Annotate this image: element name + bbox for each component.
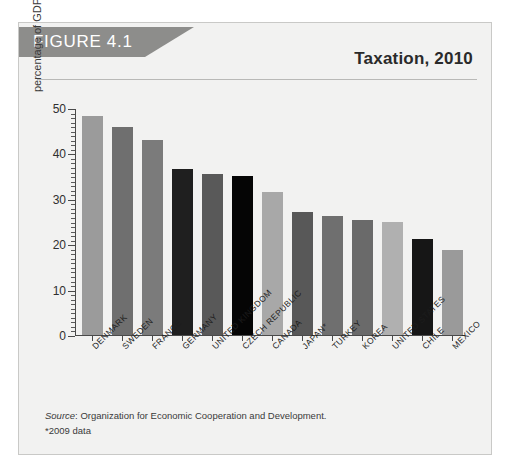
y-axis-minor-tick — [71, 236, 75, 237]
figure-footer: Source: Organization for Economic Cooper… — [45, 410, 465, 436]
y-axis-minor-tick — [71, 177, 75, 178]
chart-geometry: 01020304050 DENMARKSWEDENFRANCEGERMANYUN… — [75, 109, 465, 336]
y-axis-tick-label: 20 — [53, 238, 66, 252]
y-axis-major-tick — [68, 154, 75, 155]
y-axis-tick-label: 50 — [53, 102, 66, 116]
y-axis-minor-tick — [71, 268, 75, 269]
y-axis-minor-tick — [71, 232, 75, 233]
source-text: : Organization for Economic Cooperation … — [75, 410, 326, 421]
y-axis-title: percentage of GDP — [31, 0, 47, 135]
y-axis-minor-tick — [71, 218, 75, 219]
bar — [112, 127, 133, 335]
y-axis-minor-tick — [71, 304, 75, 305]
y-axis-minor-tick — [71, 150, 75, 151]
y-axis-minor-tick — [71, 327, 75, 328]
y-axis-minor-tick — [71, 186, 75, 187]
y-axis-major-tick — [68, 109, 75, 110]
y-axis-minor-tick — [71, 318, 75, 319]
y-axis-major-tick — [68, 291, 75, 292]
y-axis-minor-tick — [71, 331, 75, 332]
y-axis-minor-tick — [71, 213, 75, 214]
y-axis-major-tick — [68, 336, 75, 337]
y-axis-minor-tick — [71, 272, 75, 273]
bar — [292, 212, 313, 335]
y-axis-minor-tick — [71, 123, 75, 124]
bar — [382, 222, 403, 335]
y-axis-minor-tick — [71, 127, 75, 128]
bar — [82, 116, 103, 335]
y-axis-minor-tick — [71, 114, 75, 115]
y-axis-major-tick — [68, 200, 75, 201]
y-axis-tick-label: 0 — [59, 329, 66, 343]
source-label: Source — [45, 410, 75, 421]
y-axis-minor-tick — [71, 322, 75, 323]
figure-header: FIGURE 4.1 Taxation, 2010 — [19, 23, 491, 79]
y-axis-minor-tick — [71, 277, 75, 278]
figure-title: Taxation, 2010 — [354, 49, 473, 69]
y-axis-minor-tick — [71, 159, 75, 160]
footnote: *2009 data — [45, 425, 465, 436]
y-axis-minor-tick — [71, 300, 75, 301]
y-axis-tick-label: 40 — [53, 147, 66, 161]
y-axis-minor-tick — [71, 191, 75, 192]
y-axis-minor-tick — [71, 241, 75, 242]
y-axis-minor-tick — [71, 282, 75, 283]
y-axis-minor-tick — [71, 295, 75, 296]
chart-plot-area: percentage of GDP 01020304050 DENMARKSWE… — [19, 79, 491, 409]
y-axis-minor-tick — [71, 250, 75, 251]
y-axis-minor-tick — [71, 204, 75, 205]
source-note: Source: Organization for Economic Cooper… — [45, 410, 465, 421]
y-axis-minor-tick — [71, 182, 75, 183]
y-axis-minor-tick — [71, 209, 75, 210]
figure-panel: FIGURE 4.1 Taxation, 2010 percentage of … — [18, 22, 492, 455]
y-axis-minor-tick — [71, 223, 75, 224]
bar — [322, 216, 343, 335]
bar — [172, 169, 193, 335]
y-axis-minor-tick — [71, 254, 75, 255]
y-axis-minor-tick — [71, 259, 75, 260]
y-axis-minor-tick — [71, 145, 75, 146]
y-axis-minor-tick — [71, 313, 75, 314]
y-axis-minor-tick — [71, 132, 75, 133]
y-axis-minor-tick — [71, 309, 75, 310]
y-axis-minor-tick — [71, 227, 75, 228]
y-axis-minor-tick — [71, 168, 75, 169]
y-axis-minor-tick — [71, 136, 75, 137]
y-axis-minor-tick — [71, 163, 75, 164]
bar — [442, 250, 463, 335]
y-axis-minor-tick — [71, 118, 75, 119]
y-axis-major-tick — [68, 245, 75, 246]
y-axis-line — [75, 109, 76, 336]
y-axis-minor-tick — [71, 195, 75, 196]
y-axis-tick-label: 10 — [53, 284, 66, 298]
y-axis-minor-tick — [71, 286, 75, 287]
bar — [142, 140, 163, 335]
y-axis-minor-tick — [71, 141, 75, 142]
y-axis-tick-label: 30 — [53, 193, 66, 207]
y-axis-minor-tick — [71, 263, 75, 264]
y-axis-minor-tick — [71, 173, 75, 174]
